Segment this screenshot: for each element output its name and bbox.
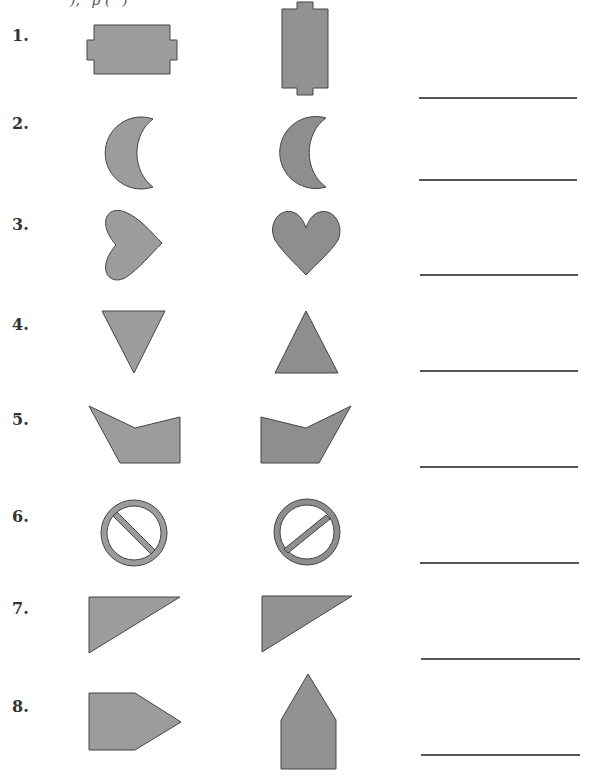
shape-3-right: [273, 211, 340, 275]
shape-7-left: [89, 597, 180, 653]
shape-1-right: [282, 2, 328, 95]
shape-4-left: [102, 311, 165, 373]
shapes-canvas: [0, 0, 591, 780]
shape-3-left: [106, 210, 162, 280]
shape-6-right: [274, 499, 340, 565]
shape-5-left: [89, 406, 180, 463]
shape-5-right: [261, 406, 351, 463]
shape-4-right: [275, 311, 338, 373]
shape-2-left: [105, 117, 153, 189]
shape-8-left: [89, 693, 181, 750]
shape-7-right: [262, 596, 352, 652]
shape-6-left: [101, 500, 167, 566]
shape-1-left: [87, 25, 177, 74]
shape-2-right: [280, 117, 326, 189]
shape-8-right: [281, 674, 336, 769]
